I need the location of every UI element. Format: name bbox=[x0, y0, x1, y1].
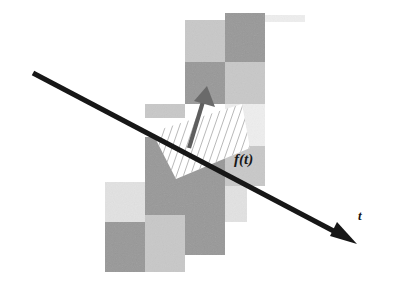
block-b14 bbox=[105, 222, 145, 272]
block-b02 bbox=[225, 13, 265, 62]
block-b13 bbox=[225, 186, 247, 222]
block-b15 bbox=[145, 215, 185, 272]
block-b03 bbox=[265, 15, 305, 22]
block-b01 bbox=[185, 20, 225, 62]
block-b06 bbox=[145, 104, 185, 118]
block-b11 bbox=[105, 182, 145, 222]
diagram-svg: f(t) t bbox=[0, 0, 415, 284]
figure-canvas: f(t) t bbox=[0, 0, 415, 284]
axis-label: t bbox=[358, 208, 362, 223]
function-label: f(t) bbox=[234, 151, 253, 168]
block-b12 bbox=[185, 186, 225, 255]
block-b05 bbox=[225, 62, 265, 104]
